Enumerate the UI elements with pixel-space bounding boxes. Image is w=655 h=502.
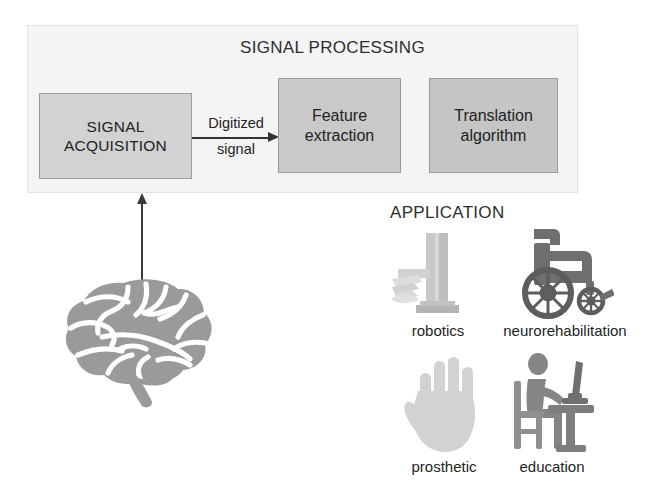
arrow-up-icon — [135, 193, 149, 283]
feature-extraction-line1: Feature — [305, 106, 374, 126]
translation-algorithm-line2: algorithm — [454, 126, 533, 146]
application-item-education[interactable]: education — [496, 353, 608, 475]
brain-icon — [62, 275, 242, 410]
person-desk-icon — [506, 353, 598, 457]
feature-extraction-line2: extraction — [305, 126, 374, 146]
signal-acquisition-label: SIGNAL ACQUISITION — [64, 117, 167, 156]
translation-algorithm-label: Translation algorithm — [454, 106, 533, 146]
hand-icon — [398, 353, 490, 457]
digitized-signal-connector: Digitized signal — [192, 93, 280, 179]
signal-acquisition-line2: ACQUISITION — [64, 136, 167, 155]
robot-arm-icon — [392, 229, 484, 321]
application-item-neurorehabilitation[interactable]: neurorehabilitation — [480, 225, 650, 339]
signal-acquisition-line1: SIGNAL — [64, 117, 167, 136]
signal-processing-panel: SIGNAL PROCESSING SIGNAL ACQUISITION Dig… — [27, 25, 578, 193]
application-title: APPLICATION — [390, 203, 504, 223]
application-item-robotics[interactable]: robotics — [390, 229, 486, 339]
feature-extraction-box[interactable]: Feature extraction — [278, 78, 401, 173]
wheelchair-icon — [516, 225, 614, 321]
digitized-signal-label-top: Digitized — [192, 115, 280, 131]
arrow-right-icon-line — [192, 137, 270, 139]
application-label-neurorehabilitation: neurorehabilitation — [480, 322, 650, 339]
application-section: APPLICATION robotics — [388, 203, 650, 493]
signal-processing-title: SIGNAL PROCESSING — [28, 38, 577, 58]
digitized-signal-label-bottom: signal — [192, 141, 280, 157]
signal-acquisition-box[interactable]: SIGNAL ACQUISITION — [39, 93, 192, 179]
application-label-prosthetic: prosthetic — [390, 458, 498, 475]
application-label-education: education — [496, 458, 608, 475]
translation-algorithm-line1: Translation — [454, 106, 533, 126]
application-label-robotics: robotics — [390, 322, 486, 339]
application-item-prosthetic[interactable]: prosthetic — [390, 353, 498, 475]
feature-extraction-label: Feature extraction — [305, 106, 374, 146]
translation-algorithm-box[interactable]: Translation algorithm — [429, 78, 558, 173]
arrow-up-icon-line — [141, 201, 143, 283]
